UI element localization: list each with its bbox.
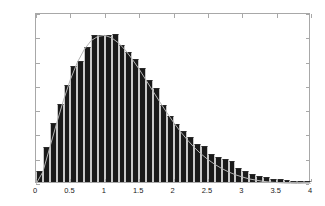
x-tick-label: 1.5 [133, 187, 143, 195]
x-tick-label: 0.5 [64, 187, 74, 195]
x-tick-label: 3.5 [270, 187, 280, 195]
x-tick-label: 0 [33, 187, 37, 195]
x-axis-labels: 00.511.522.533.54 [0, 0, 325, 206]
x-tick-label: 1 [102, 187, 106, 195]
figure-canvas: 00.10.20.30.40.50.60.7 00.511.522.533.54 [0, 0, 325, 206]
x-tick-label: 3 [239, 187, 243, 195]
x-tick-label: 2.5 [202, 187, 212, 195]
x-tick-label: 4 [308, 187, 312, 195]
x-tick-label: 2 [170, 187, 174, 195]
